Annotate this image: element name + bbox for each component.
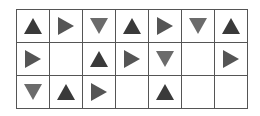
triangle-right-icon [124, 50, 140, 68]
grid-cell [83, 43, 116, 76]
grid-cell [83, 10, 116, 43]
grid-cell [182, 76, 215, 109]
triangle-up-icon [57, 84, 75, 100]
grid-cell [116, 10, 149, 43]
grid-cell [50, 10, 83, 43]
grid-cell [149, 43, 182, 76]
triangle-down-icon [156, 51, 174, 67]
triangle-up-icon [24, 18, 42, 34]
triangle-right-icon [91, 83, 107, 101]
grid-cell [149, 76, 182, 109]
triangle-down-icon [189, 18, 207, 34]
grid-cell [149, 10, 182, 43]
grid-cell [116, 43, 149, 76]
grid-cell [17, 76, 50, 109]
grid-cell [83, 76, 116, 109]
grid-cell [116, 76, 149, 109]
triangle-down-icon [24, 84, 42, 100]
grid-cell [215, 43, 248, 76]
grid-cell [50, 76, 83, 109]
grid-cell [215, 76, 248, 109]
triangle-right-icon [58, 17, 74, 35]
grid-cell [50, 43, 83, 76]
triangle-up-icon [222, 18, 240, 34]
triangle-right-icon [157, 17, 173, 35]
grid-cell [182, 10, 215, 43]
triangle-up-icon [156, 84, 174, 100]
grid-cell [215, 10, 248, 43]
triangle-up-icon [90, 51, 108, 67]
triangle-grid [16, 9, 248, 109]
triangle-right-icon [25, 50, 41, 68]
grid-cell [182, 43, 215, 76]
triangle-down-icon [90, 18, 108, 34]
triangle-up-icon [123, 18, 141, 34]
grid-cell [17, 10, 50, 43]
grid-cell [17, 43, 50, 76]
triangle-right-icon [223, 50, 239, 68]
